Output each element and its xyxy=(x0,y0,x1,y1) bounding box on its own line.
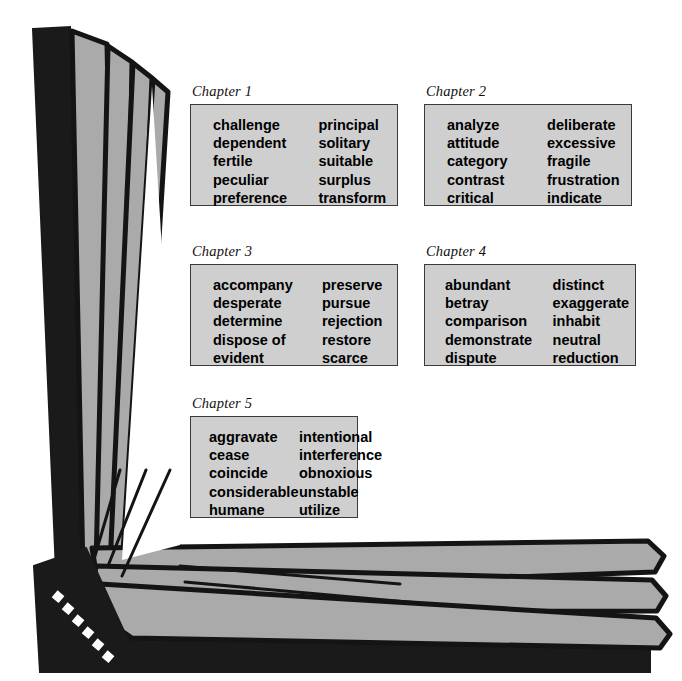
word-item: dispute xyxy=(445,349,553,367)
word-item: attitude xyxy=(447,134,547,152)
word-item: abundant xyxy=(445,276,553,294)
word-item: comparison xyxy=(445,312,553,330)
word-box-3: accompany desperate determine dispose of… xyxy=(190,264,398,366)
word-item: solitary xyxy=(318,134,397,152)
word-item: suitable xyxy=(318,152,397,170)
word-item: peculiar xyxy=(213,171,318,189)
word-item: transform xyxy=(318,189,397,207)
word-item: evident xyxy=(213,349,322,367)
word-box-2: analyze attitude category contrast criti… xyxy=(424,104,632,206)
word-item: considerable xyxy=(209,483,299,501)
word-item: intentional xyxy=(299,428,357,446)
word-column-left-4: abundant betray comparison demonstrate d… xyxy=(425,276,553,354)
chapter-label-4: Chapter 4 xyxy=(426,244,636,260)
word-item: obnoxious xyxy=(299,464,357,482)
word-item: aggravate xyxy=(209,428,299,446)
word-item: excessive xyxy=(547,134,631,152)
chapter-block-1: Chapter 1 challenge dependent fertile pe… xyxy=(190,84,398,206)
word-item: desperate xyxy=(213,294,322,312)
word-item: demonstrate xyxy=(445,331,553,349)
word-item: preference xyxy=(213,189,318,207)
word-column-left-3: accompany desperate determine dispose of… xyxy=(191,276,322,354)
word-item: restore xyxy=(322,331,397,349)
word-item: surplus xyxy=(318,171,397,189)
word-item: rejection xyxy=(322,312,397,330)
word-item: dispose of xyxy=(213,331,322,349)
word-item: accompany xyxy=(213,276,322,294)
chapter-block-4: Chapter 4 abundant betray comparison dem… xyxy=(424,244,636,366)
word-box-1: challenge dependent fertile peculiar pre… xyxy=(190,104,398,206)
word-item: fragile xyxy=(547,152,631,170)
chapter-label-5: Chapter 5 xyxy=(192,396,358,412)
word-item: challenge xyxy=(213,116,318,134)
chapter-label-2: Chapter 2 xyxy=(426,84,632,100)
word-column-right-4: distinct exaggerate inhabit neutral redu… xyxy=(553,276,635,354)
word-item: category xyxy=(447,152,547,170)
word-item: neutral xyxy=(553,331,635,349)
word-item: frustration xyxy=(547,171,631,189)
word-item: inhabit xyxy=(553,312,635,330)
page-root: Chapter 1 challenge dependent fertile pe… xyxy=(0,0,682,681)
word-item: principal xyxy=(318,116,397,134)
word-column-right-2: deliberate excessive fragile frustration… xyxy=(547,116,631,194)
chapter-block-3: Chapter 3 accompany desperate determine … xyxy=(190,244,398,366)
word-column-right-1: principal solitary suitable surplus tran… xyxy=(318,116,397,194)
chapter-block-2: Chapter 2 analyze attitude category cont… xyxy=(424,84,632,206)
word-item: exaggerate xyxy=(553,294,635,312)
word-column-right-3: preserve pursue rejection restore scarce xyxy=(322,276,397,354)
chapter-block-5: Chapter 5 aggravate cease coincide consi… xyxy=(190,396,358,518)
word-item: critical xyxy=(447,189,547,207)
word-item: fertile xyxy=(213,152,318,170)
word-box-4: abundant betray comparison demonstrate d… xyxy=(424,264,636,366)
word-item: distinct xyxy=(553,276,635,294)
word-item: scarce xyxy=(322,349,397,367)
chapter-label-1: Chapter 1 xyxy=(192,84,398,100)
word-column-left-1: challenge dependent fertile peculiar pre… xyxy=(191,116,318,194)
word-item: determine xyxy=(213,312,322,330)
word-item: pursue xyxy=(322,294,397,312)
word-item: utilize xyxy=(299,501,357,519)
word-item: indicate xyxy=(547,189,631,207)
word-item: preserve xyxy=(322,276,397,294)
word-item: cease xyxy=(209,446,299,464)
word-column-right-5: intentional interference obnoxious unsta… xyxy=(299,428,357,506)
word-box-5: aggravate cease coincide considerable hu… xyxy=(190,416,358,518)
word-column-left-2: analyze attitude category contrast criti… xyxy=(425,116,547,194)
word-item: humane xyxy=(209,501,299,519)
word-item: deliberate xyxy=(547,116,631,134)
word-item: coincide xyxy=(209,464,299,482)
word-item: dependent xyxy=(213,134,318,152)
word-item: reduction xyxy=(553,349,635,367)
word-column-left-5: aggravate cease coincide considerable hu… xyxy=(191,428,299,506)
word-item: betray xyxy=(445,294,553,312)
word-item: unstable xyxy=(299,483,357,501)
word-item: interference xyxy=(299,446,357,464)
chapter-label-3: Chapter 3 xyxy=(192,244,398,260)
word-item: contrast xyxy=(447,171,547,189)
word-item: analyze xyxy=(447,116,547,134)
